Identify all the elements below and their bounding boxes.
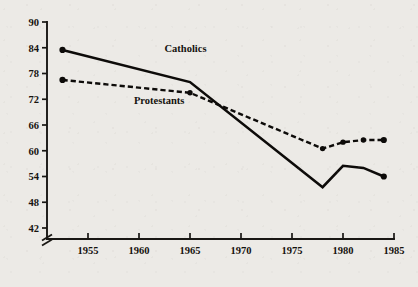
- x-axis-tick-label: 1960: [129, 245, 150, 256]
- data-series-group: [59, 47, 387, 187]
- data-point-marker: [340, 139, 345, 144]
- data-point-marker: [59, 47, 65, 53]
- x-axis-tick-label: 1965: [180, 245, 201, 256]
- data-point-marker: [187, 90, 192, 95]
- series-label-protestants: Protestants: [134, 95, 185, 106]
- y-axis-tick-label: 90: [29, 17, 40, 28]
- y-axis-tick-label: 66: [29, 120, 40, 131]
- series-label-catholics: Catholics: [165, 43, 207, 54]
- y-axis-tick-label: 42: [29, 223, 40, 234]
- line-chart: 424854606672788490 195519601965197019751…: [0, 0, 418, 287]
- data-point-marker: [381, 137, 387, 143]
- y-axis-tick-label: 84: [29, 43, 40, 54]
- x-axis-tick-label: 1955: [78, 245, 99, 256]
- x-axis-tick-label: 1970: [231, 245, 252, 256]
- series-line-catholics: [63, 50, 384, 187]
- x-axis: 1955196019651970197519801985: [47, 233, 405, 256]
- data-point-marker: [59, 77, 65, 83]
- y-axis: 424854606672788490: [29, 17, 53, 246]
- y-axis-tick-label: 60: [29, 146, 40, 157]
- y-axis-tick-label: 54: [29, 171, 40, 182]
- data-point-marker: [320, 146, 325, 151]
- x-axis-tick-label: 1985: [384, 245, 405, 256]
- y-axis-tick-label: 48: [29, 197, 40, 208]
- data-point-marker: [381, 173, 387, 179]
- chart-canvas: 424854606672788490 195519601965197019751…: [0, 0, 418, 287]
- data-point-marker: [361, 137, 366, 142]
- y-axis-tick-label: 72: [29, 94, 40, 105]
- x-axis-tick-label: 1980: [333, 245, 354, 256]
- series-line-protestants: [63, 80, 384, 149]
- y-axis-tick-label: 78: [29, 68, 40, 79]
- x-axis-tick-label: 1975: [282, 245, 303, 256]
